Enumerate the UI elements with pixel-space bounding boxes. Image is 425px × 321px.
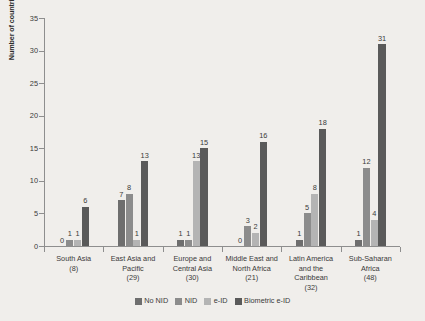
plot-area: 05101520253035 0116781131113150321615818…	[44, 18, 400, 247]
bar-group: 112431	[44, 18, 400, 246]
chart-figure: Number of countries 05101520253035 01167…	[0, 0, 425, 321]
y-tick-label: 35	[16, 15, 38, 22]
y-tick-label: 15	[16, 145, 38, 152]
chart-legend: No NIDNIDe-IDBiometric e-ID	[0, 297, 425, 305]
x-category-label: South Asia (8)	[44, 254, 103, 273]
y-tick-label: 20	[16, 112, 38, 119]
bar[interactable]	[371, 220, 378, 246]
legend-item[interactable]: NID	[175, 297, 197, 305]
x-category-label: Sub-Saharan Africa (48)	[341, 254, 400, 283]
x-tick-mark	[44, 247, 45, 252]
x-tick-mark	[281, 247, 282, 252]
x-category-label: Middle East and North Africa (21)	[222, 254, 281, 283]
legend-label: Biometric e-ID	[244, 297, 290, 305]
y-tick-label: 25	[16, 80, 38, 87]
bar-value-label: 31	[374, 35, 389, 43]
legend-swatch-icon	[175, 298, 182, 305]
bar[interactable]	[355, 240, 362, 247]
y-tick-label: 0	[16, 243, 38, 250]
legend-swatch-icon	[135, 298, 142, 305]
legend-item[interactable]: Biometric e-ID	[235, 297, 291, 305]
x-tick-mark	[400, 247, 401, 252]
x-tick-mark	[222, 247, 223, 252]
x-tick-mark	[341, 247, 342, 252]
bar-value-label: 12	[359, 158, 374, 166]
legend-label: No NID	[144, 297, 168, 305]
y-tick-label: 30	[16, 47, 38, 54]
x-category-label: East Asia and Pacific (29)	[103, 254, 162, 283]
bar[interactable]	[363, 168, 370, 246]
x-category-label: Europe and Central Asia (30)	[163, 254, 222, 283]
legend-swatch-icon	[235, 298, 242, 305]
legend-item[interactable]: No NID	[135, 297, 168, 305]
legend-label: e-ID	[214, 297, 228, 305]
legend-label: NID	[185, 297, 198, 305]
y-tick-label: 5	[16, 210, 38, 217]
bar[interactable]	[378, 44, 385, 246]
x-tick-mark	[163, 247, 164, 252]
y-tick-label: 10	[16, 177, 38, 184]
legend-swatch-icon	[204, 298, 211, 305]
x-category-label: Latin America and the Caribbean (32)	[281, 254, 340, 292]
x-tick-mark	[103, 247, 104, 252]
legend-item[interactable]: e-ID	[204, 297, 227, 305]
